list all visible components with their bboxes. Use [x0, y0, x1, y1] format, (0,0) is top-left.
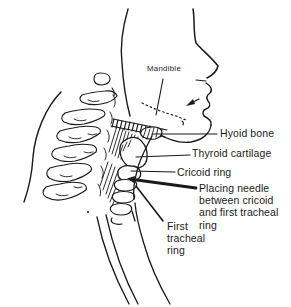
nape-outline — [24, 92, 61, 202]
first-tracheal-leader-line — [136, 186, 163, 221]
lips-chin-outline — [203, 83, 211, 125]
label-first-tracheal-ring: First tracheal ring — [167, 220, 213, 257]
neck-anatomy-figure: Mandible Hyoid bone Thyroid cartilage Cr… — [0, 0, 291, 307]
occiput-outline — [121, 9, 130, 116]
nostril-line — [196, 80, 206, 81]
mandible-dotted-line — [142, 103, 186, 120]
cervical-vertebrae — [43, 73, 117, 213]
label-cricoid-ring: Cricoid ring — [177, 166, 231, 178]
label-mandible: Mandible — [147, 64, 181, 73]
mandible-leader-line — [156, 79, 163, 115]
chin-tick — [182, 121, 183, 125]
needle-line — [133, 180, 196, 189]
label-hyoid-bone: Hyoid bone — [220, 127, 274, 139]
mouth-arrow-head — [186, 99, 195, 106]
label-thyroid-cartilage: Thyroid cartilage — [192, 147, 271, 159]
forehead-nose-outline — [193, 9, 218, 78]
